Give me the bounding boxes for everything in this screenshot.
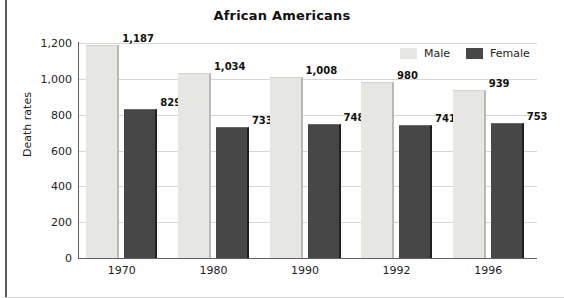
bar-1970-male: [86, 45, 119, 258]
bar-value-label: 1,008: [306, 65, 338, 76]
bar-value-label: 980: [397, 70, 418, 81]
bar-value-label: 1,187: [122, 33, 154, 44]
y-axis-tick-label: 1,000: [12, 72, 72, 85]
y-axis-tick-label: 0: [12, 252, 72, 265]
bar-1990-male: [270, 77, 303, 258]
y-axis-tick-label: 800: [12, 108, 72, 121]
legend-swatch-male: [400, 48, 417, 59]
y-axis-tick-labels: 02004006008001,0001,200: [8, 43, 72, 258]
y-axis-tick-label: 600: [12, 144, 72, 157]
gridline: [79, 79, 537, 80]
bar-value-label: 753: [527, 111, 548, 122]
x-axis-tick-label: 1992: [352, 264, 442, 277]
x-axis-tick-label: 1980: [168, 264, 258, 277]
plot-area: 1,1878291,0347331,008748980741939753: [79, 43, 537, 258]
x-axis-tick-label: 1970: [77, 264, 167, 277]
chart-legend: MaleFemale: [398, 44, 541, 62]
bar-value-label: 939: [489, 78, 510, 89]
bar-1992-female: [399, 125, 432, 258]
x-axis-tick-label: 1990: [260, 264, 350, 277]
x-axis-line: [78, 258, 537, 259]
bar-1996-female: [491, 123, 524, 258]
chart-title: African Americans: [0, 8, 564, 23]
bar-1992-male: [361, 82, 394, 258]
bar-1980-female: [216, 127, 249, 258]
bar-1980-male: [178, 73, 211, 258]
page-edge-left-rule: [5, 0, 7, 298]
y-axis-tick-label: 200: [12, 216, 72, 229]
legend-label-male: Male: [424, 47, 450, 60]
x-axis-tick-label: 1996: [443, 264, 533, 277]
y-axis-tick-label: 400: [12, 180, 72, 193]
bar-1996-male: [453, 90, 486, 258]
y-axis-tick-label: 1,200: [12, 37, 72, 50]
chart-figure: African Americans Death rates 0200400600…: [0, 0, 564, 298]
legend-label-female: Female: [490, 47, 530, 60]
legend-swatch-female: [466, 48, 483, 59]
bar-1990-female: [308, 124, 341, 258]
bar-1970-female: [124, 109, 157, 258]
bar-value-label: 1,034: [214, 61, 246, 72]
